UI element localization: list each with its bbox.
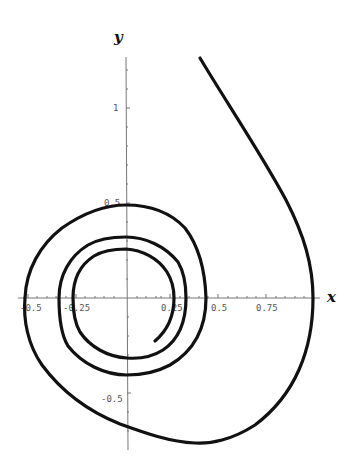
x-axis-label: x [326, 288, 337, 306]
y-tick-label: 1 [113, 103, 118, 113]
y-axis [126, 57, 128, 450]
y-tick-label: -0.5 [101, 394, 123, 404]
trajectory-curve [25, 58, 313, 443]
y-axis-label: y [113, 28, 124, 46]
x-tick-label: 0.75 [256, 303, 278, 313]
x-ticks [28, 294, 304, 298]
x-tick-label: 0.5 [211, 303, 227, 313]
x-tick-label: -0.25 [63, 303, 90, 313]
phase-plot: -0.5 -0.25 0.25 0.5 0.75 1 0.5 -0.5 x y [0, 0, 354, 462]
y-tick-labels: 1 0.5 -0.5 [101, 103, 123, 404]
